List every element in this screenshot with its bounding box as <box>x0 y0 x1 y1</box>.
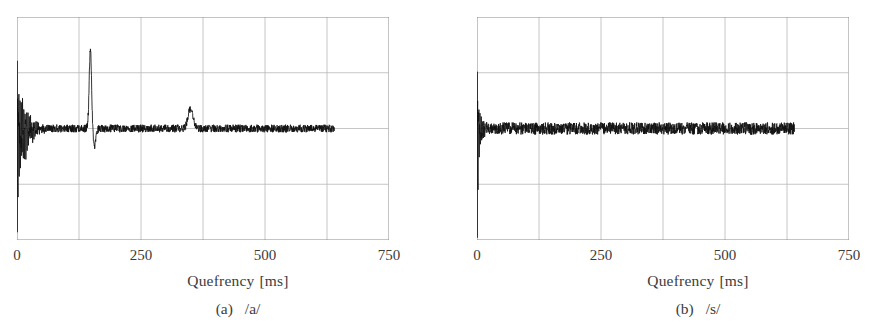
signal-trace <box>17 49 334 197</box>
x-axis-title-a: Quefrency[ms] <box>0 272 456 290</box>
plot-area-b <box>477 17 849 240</box>
x-tick-0: 0 <box>473 246 481 264</box>
x-tick-labels-b: 0250500750 <box>436 246 872 268</box>
x-axis-unit-a: [ms] <box>260 272 289 289</box>
panel-caption-a: (a)/a/ <box>0 300 456 318</box>
panel-caption-index-b: (b) <box>676 300 694 317</box>
cepstrum-figure: 0250500750 Quefrency[ms] (a)/a/ 02505007… <box>0 0 872 334</box>
x-axis-unit-b: [ms] <box>720 272 749 289</box>
cepstrum-plot-a <box>17 17 389 240</box>
x-tick-0: 0 <box>13 246 21 264</box>
x-tick-750: 750 <box>378 246 401 264</box>
x-tick-250: 250 <box>590 246 613 264</box>
x-tick-500: 500 <box>714 246 737 264</box>
plot-area-a <box>17 17 389 240</box>
cepstrum-plot-b <box>477 17 849 240</box>
x-tick-250: 250 <box>130 246 153 264</box>
panel-caption-index-a: (a) <box>216 300 233 317</box>
signal-trace <box>477 101 794 190</box>
panel-caption-b: (b)/s/ <box>436 300 872 318</box>
x-tick-labels-a: 0250500750 <box>0 246 436 268</box>
panel-a: 0250500750 Quefrency[ms] (a)/a/ <box>0 0 436 334</box>
x-tick-750: 750 <box>838 246 861 264</box>
x-axis-title-text-a: Quefrency <box>187 272 254 289</box>
panel-caption-phoneme-b: /s/ <box>706 300 721 317</box>
x-axis-title-b: Quefrency[ms] <box>436 272 872 290</box>
x-axis-title-text-b: Quefrency <box>647 272 714 289</box>
panel-b: 0250500750 Quefrency[ms] (b)/s/ <box>436 0 872 334</box>
x-tick-500: 500 <box>254 246 277 264</box>
panel-caption-phoneme-a: /a/ <box>245 300 261 317</box>
